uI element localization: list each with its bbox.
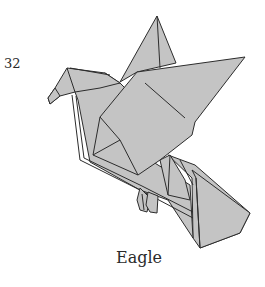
origami-eagle-figure xyxy=(0,0,265,287)
diagram-caption: Eagle xyxy=(116,248,162,267)
